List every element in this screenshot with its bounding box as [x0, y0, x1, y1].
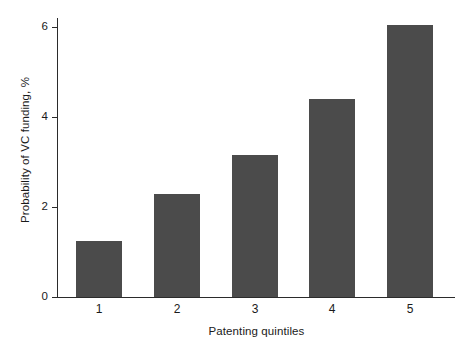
bar-quintile-4	[309, 99, 355, 297]
y-tick-label: 0	[42, 291, 48, 303]
y-tick-mark	[52, 117, 58, 118]
y-tick-mark	[52, 27, 58, 28]
x-tick-label-4: 4	[329, 303, 336, 315]
y-tick-label: 2	[42, 201, 48, 213]
y-tick-mark	[52, 207, 58, 208]
bar-quintile-3	[232, 155, 278, 297]
y-tick-mark	[52, 297, 58, 298]
bar-quintile-5	[387, 25, 433, 297]
x-tick-label-2: 2	[174, 303, 181, 315]
y-axis-line	[57, 18, 58, 297]
bar-quintile-1	[76, 241, 122, 297]
bar-quintile-2	[154, 194, 200, 298]
x-axis-title: Patenting quintiles	[57, 325, 456, 337]
y-axis-title: Probability of VC funding, %	[14, 0, 36, 300]
plot-area: 0 2 4 6 1 2 3 4 5	[57, 18, 455, 297]
x-tick-label-3: 3	[252, 303, 259, 315]
x-axis-line	[57, 297, 455, 298]
y-tick-label: 4	[42, 111, 48, 123]
y-tick-label: 6	[42, 21, 48, 33]
bar-chart-figure: Probability of VC funding, % 0 2 4 6 1 2	[0, 0, 466, 356]
x-tick-label-5: 5	[407, 303, 414, 315]
x-tick-label-1: 1	[96, 303, 103, 315]
